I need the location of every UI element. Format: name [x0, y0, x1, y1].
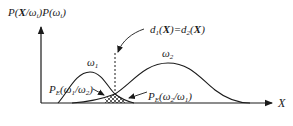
- boundary-arrow: [118, 29, 144, 52]
- class1-label: ω1: [87, 56, 98, 70]
- x-axis-label: X: [277, 96, 286, 110]
- class2-label: ω2: [162, 47, 174, 61]
- error2-label: PE(ω2/ω1): [147, 90, 192, 104]
- error1-arrow: [93, 89, 104, 95]
- error2-arrow: [129, 92, 147, 98]
- bayes-decision-diagram: P(X/ωi)P(ωi) d1(X)=d2(X) ω1 ω2 PE(ω1/ω2)…: [0, 0, 293, 126]
- decision-boundary-label: d1(X)=d2(X): [150, 23, 205, 37]
- y-axis-label: P(X/ωi)P(ωi): [7, 6, 66, 20]
- error1-label: PE(ω1/ω2): [48, 83, 93, 97]
